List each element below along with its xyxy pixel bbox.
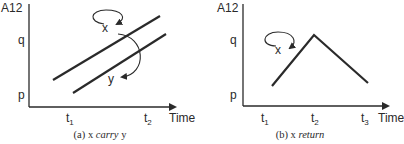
loop-label-y: y bbox=[108, 72, 114, 86]
loop-label-x: x bbox=[275, 43, 281, 57]
y-tick-p: p bbox=[18, 88, 25, 102]
panel-a: A12 q p t1 t2 Time x y (a) x carry y bbox=[1, 1, 196, 141]
y-tick-q: q bbox=[18, 33, 25, 47]
x-tick-t2: t2 bbox=[311, 111, 319, 127]
y-tick-p: p bbox=[230, 88, 237, 102]
caption-a: (a) x carry y bbox=[74, 129, 128, 141]
y-axis-label: A12 bbox=[1, 1, 23, 15]
x-tick-t1: t1 bbox=[261, 111, 269, 127]
loop-label-x: x bbox=[102, 21, 108, 35]
x-tick-t3: t3 bbox=[361, 111, 369, 127]
transfer-arrow-icon bbox=[118, 34, 140, 77]
x-tick-t1: t1 bbox=[66, 111, 74, 127]
trajectory-y bbox=[73, 34, 166, 93]
y-tick-q: q bbox=[230, 33, 237, 47]
diagram-canvas: A12 q p t1 t2 Time x y (a) x carry y A12… bbox=[0, 0, 404, 144]
y-axis-label: A12 bbox=[217, 1, 239, 15]
x-tick-t2: t2 bbox=[144, 111, 152, 127]
panel-b: A12 q p t1 t2 t3 Time x (b) x return bbox=[217, 1, 404, 141]
caption-b: (b) x return bbox=[276, 129, 325, 141]
x-axis-label: Time bbox=[169, 111, 196, 125]
trajectory-x bbox=[272, 35, 368, 86]
x-axis-label: Time bbox=[378, 111, 404, 125]
